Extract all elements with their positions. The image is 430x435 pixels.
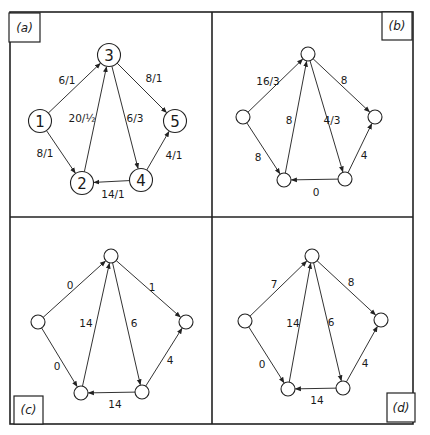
- panel-label-text: (c): [21, 403, 37, 417]
- edge-4-to-2: [295, 388, 336, 389]
- edge-label: 8: [348, 276, 355, 288]
- node-circle: [236, 110, 250, 124]
- node-circle: [281, 382, 295, 396]
- edge-label: 0: [313, 186, 320, 198]
- node-2: [74, 386, 88, 400]
- network-flow-figure: 6/18/120/½6/38/14/114/112345(a)16/3884/3…: [0, 0, 430, 435]
- node-label: 2: [77, 175, 87, 193]
- node-circle: [179, 315, 193, 329]
- node-circle: [301, 47, 315, 61]
- edge-label: 8: [286, 114, 293, 126]
- edge-label: 4: [361, 149, 368, 161]
- node-5: [374, 313, 388, 327]
- nodes: [238, 249, 388, 396]
- panel-label-a: (a): [9, 13, 40, 42]
- edge-4-to-2: [94, 181, 130, 183]
- panel-label-c: (c): [14, 396, 43, 424]
- nodes: 12345: [29, 44, 187, 195]
- node-circle: [368, 110, 382, 124]
- node-4: [135, 385, 149, 399]
- nodes: [31, 249, 193, 400]
- edge-label: 6: [328, 316, 335, 328]
- edge-label: 4/3: [324, 114, 341, 126]
- node-3: 3: [98, 44, 121, 67]
- node-4: [338, 172, 352, 186]
- edge-label: 14: [108, 398, 122, 410]
- nodes: [236, 47, 382, 187]
- edge-label: 6/1: [59, 74, 76, 86]
- edge-label: 8/1: [146, 72, 163, 84]
- edge-label: 4: [362, 357, 369, 369]
- edge-label: 6/3: [127, 112, 144, 124]
- node-1: 1: [29, 110, 52, 133]
- node-circle: [277, 173, 291, 187]
- edge-1-to-3: [250, 261, 307, 316]
- node-circle: [238, 314, 252, 328]
- edge-label: 16/3: [256, 75, 280, 87]
- panel-label-b: (b): [382, 12, 412, 40]
- edge-label: 14: [79, 317, 93, 329]
- node-label: 4: [136, 172, 146, 190]
- panel-b: 16/3884/3840(b): [236, 12, 412, 198]
- edges: 6/18/120/½6/38/14/114/1: [37, 63, 183, 200]
- node-label: 1: [35, 113, 45, 131]
- node-3: [301, 47, 315, 61]
- edge-label: 14/1: [101, 188, 125, 200]
- edge-label: 4/1: [166, 149, 183, 161]
- edges: 001461414: [42, 261, 182, 410]
- edge-4-to-5: [146, 328, 182, 386]
- node-circle: [135, 385, 149, 399]
- node-circle: [374, 313, 388, 327]
- edge-1-to-3: [48, 63, 100, 113]
- edge-label: 0: [259, 358, 266, 370]
- node-2: [277, 173, 291, 187]
- edge-1-to-3: [43, 261, 105, 317]
- edge-label: 7: [271, 278, 278, 290]
- edge-label: 1: [149, 281, 156, 293]
- edge-4-to-2: [88, 392, 135, 393]
- panel-label-text: (a): [16, 21, 33, 35]
- node-2: [281, 382, 295, 396]
- node-circle: [336, 381, 350, 395]
- node-5: 5: [164, 110, 187, 133]
- node-3: [305, 249, 319, 263]
- edge-label: 20/½: [68, 112, 95, 124]
- edge-1-to-2: [42, 328, 77, 387]
- node-circle: [74, 386, 88, 400]
- node-3: [104, 249, 118, 263]
- edge-label: 0: [67, 279, 74, 291]
- edges: 16/3884/3840: [247, 59, 372, 198]
- panel-label-d: (d): [387, 393, 415, 422]
- edge-label: 4: [167, 354, 174, 366]
- node-circle: [338, 172, 352, 186]
- edge-label: 8: [341, 74, 348, 86]
- node-2: 2: [71, 172, 94, 195]
- edge-label: 14: [286, 317, 300, 329]
- panel-c: 001461414(c): [14, 249, 193, 424]
- node-4: 4: [130, 169, 153, 192]
- edge-label: 8/1: [37, 147, 54, 159]
- edge-label: 8: [255, 151, 262, 163]
- node-1: [236, 110, 250, 124]
- panel-d: 701468414(d): [238, 249, 415, 422]
- node-circle: [31, 315, 45, 329]
- edge-label: 6: [131, 317, 138, 329]
- edge-3-to-5: [117, 63, 166, 112]
- node-5: [368, 110, 382, 124]
- edge-label: 14: [310, 394, 324, 406]
- panel-label-text: (d): [393, 401, 410, 415]
- node-1: [31, 315, 45, 329]
- node-label: 5: [170, 113, 180, 131]
- edge-4-to-5: [346, 327, 377, 382]
- panel-label-text: (b): [389, 19, 406, 33]
- node-circle: [104, 249, 118, 263]
- edge-4-to-2: [291, 179, 338, 180]
- node-5: [179, 315, 193, 329]
- node-label: 3: [104, 47, 114, 65]
- edges: 701468414: [249, 261, 378, 406]
- edge-3-to-5: [317, 261, 375, 315]
- edge-1-to-2: [249, 327, 284, 383]
- edge-1-to-2: [247, 123, 280, 174]
- node-circle: [305, 249, 319, 263]
- node-4: [336, 381, 350, 395]
